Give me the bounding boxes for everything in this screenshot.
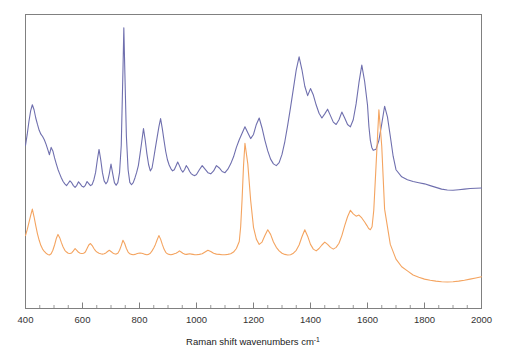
x-tick-label: 2000 [471,314,492,325]
x-tick-label: 600 [75,314,91,325]
x-tick-label: 1000 [186,314,207,325]
x-tick-label: 1600 [357,314,378,325]
raman-spectra-figure: 400600800100012001400160018002000 Raman … [0,0,507,363]
x-tick-label: 1200 [243,314,264,325]
x-tick-label: 800 [132,314,148,325]
x-tick-label: 400 [18,314,34,325]
raman-chart-svg: 400600800100012001400160018002000 Raman … [0,0,507,363]
x-tick-label: 1800 [414,314,435,325]
x-axis-title: Raman shift wavenumbers cm-1 [186,336,320,347]
x-axis-tick-labels: 400600800100012001400160018002000 [18,314,493,325]
x-tick-label: 1400 [300,314,321,325]
